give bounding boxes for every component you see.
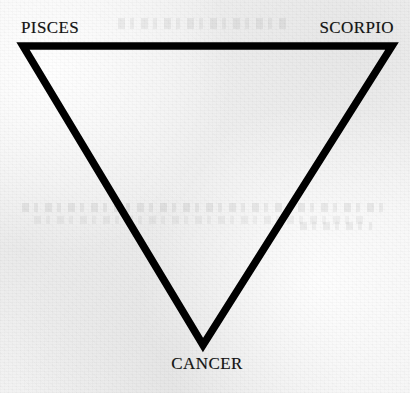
vertex-label-scorpio: SCORPIO <box>319 19 394 36</box>
triangle-outline-icon <box>0 0 410 393</box>
vertex-label-cancer-text: CANCER <box>171 355 242 372</box>
vertex-label-pisces: PISCES <box>21 19 79 36</box>
vertex-label-cancer: CANCER <box>0 355 410 372</box>
astrology-water-trigon-figure: PISCES SCORPIO CANCER <box>0 0 410 393</box>
